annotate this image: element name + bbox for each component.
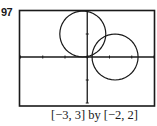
circle-1 [60, 11, 106, 57]
curves [60, 11, 138, 80]
window-range-label: [−3, 3] by [−2, 2] [19, 108, 138, 123]
window-caption: [−3, 3] by [−2, 2] [0, 108, 157, 123]
